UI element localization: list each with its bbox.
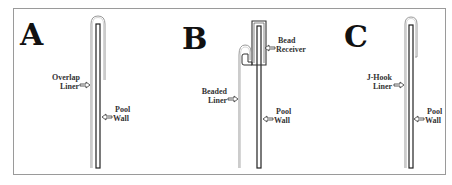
overlap-liner-label-line-1: Overlap (52, 73, 79, 82)
pool-wall-label-b-line-1: Pool (274, 107, 291, 116)
pool-wall-label-b: Pool Wall (274, 107, 291, 125)
pool-wall-label-c: Pool Wall (425, 107, 442, 125)
liner-arrow-b (228, 96, 238, 102)
beaded-liner-label-line-1: Beaded (200, 87, 227, 96)
pool-wall-c (409, 25, 413, 168)
panel-a-drawing (80, 16, 112, 168)
liner-arrow-a (80, 82, 90, 88)
wall-arrow-a (102, 114, 112, 120)
j-hook-liner-label: J-Hook Liner (362, 73, 392, 91)
bead-receiver-label-line-2: Receiver (276, 45, 306, 54)
beaded-liner-label-line-2: Liner (200, 96, 227, 105)
diagram-canvas: A Overlap Liner Pool Wall B Bead Receive… (0, 0, 452, 185)
pool-wall-label-c-line-1: Pool (425, 107, 442, 116)
pool-wall-a (96, 24, 100, 168)
pool-wall-label-a-line-1: Pool (113, 105, 130, 114)
panel-letter-b: B (182, 24, 207, 54)
pool-wall-label-c-line-2: Wall (425, 116, 442, 125)
bead-receiver-label: Bead Receiver (276, 36, 306, 54)
beaded-liner-label: Beaded Liner (200, 87, 227, 105)
panel-b-drawing (228, 21, 275, 168)
pool-wall-label-a: Pool Wall (113, 105, 130, 123)
pool-wall-b (257, 26, 261, 168)
overlap-liner-label-line-2: Liner (52, 82, 79, 91)
j-hook-liner-label-line-2: Liner (362, 82, 392, 91)
pool-wall-label-b-line-2: Wall (274, 116, 291, 125)
panel-letter-c: C (344, 22, 368, 52)
j-hook-liner-label-line-1: J-Hook (362, 73, 392, 82)
overlap-liner-label: Overlap Liner (52, 73, 79, 91)
liner-arrow-c (394, 82, 404, 88)
panel-letter-a: A (20, 20, 43, 50)
panel-c-drawing (394, 17, 424, 168)
bead-receiver-label-line-1: Bead (276, 36, 306, 45)
wall-arrow-c (414, 116, 424, 122)
pool-wall-label-a-line-2: Wall (113, 114, 130, 123)
wall-arrow-b (263, 116, 273, 122)
